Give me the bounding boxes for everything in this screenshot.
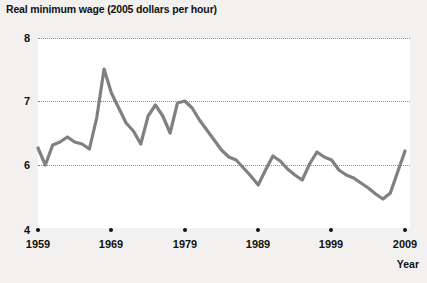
xtick-dot-1969 — [109, 228, 113, 232]
xtick-dot-2009 — [403, 228, 407, 232]
xtick-dot-1979 — [183, 228, 187, 232]
ytick-label-7: 7 — [8, 95, 30, 107]
xtick-dot-1959 — [36, 228, 40, 232]
xtick-label-1969: 1969 — [99, 238, 123, 250]
xtick-label-1979: 1979 — [173, 238, 197, 250]
chart-figure: Real minimum wage (2005 dollars per hour… — [0, 0, 427, 283]
ytick-label-4: 4 — [8, 224, 30, 236]
xtick-label-2009: 2009 — [393, 238, 417, 250]
series-line — [38, 38, 410, 228]
ytick-label-6: 6 — [8, 159, 30, 171]
xtick-dot-1989 — [256, 228, 260, 232]
chart-title: Real minimum wage (2005 dollars per hour… — [6, 3, 217, 15]
xtick-label-1959: 1959 — [26, 238, 50, 250]
xtick-label-1989: 1989 — [246, 238, 270, 250]
xtick-label-1999: 1999 — [319, 238, 343, 250]
x-axis-title: Year — [397, 258, 419, 270]
xtick-dot-1999 — [329, 228, 333, 232]
plot-area — [38, 38, 410, 228]
ytick-label-8: 8 — [8, 32, 30, 44]
